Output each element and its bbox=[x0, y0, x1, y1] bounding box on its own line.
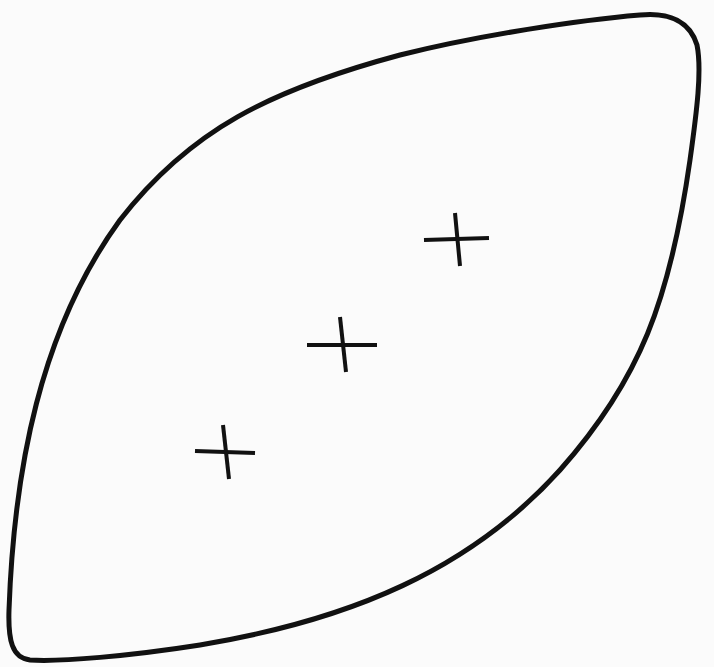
diagram-canvas bbox=[0, 0, 714, 667]
plus-mark-1 bbox=[195, 425, 255, 479]
plus-mark-3 bbox=[424, 213, 489, 266]
plus-mark-2 bbox=[307, 317, 377, 372]
lens-outline bbox=[9, 14, 699, 660]
